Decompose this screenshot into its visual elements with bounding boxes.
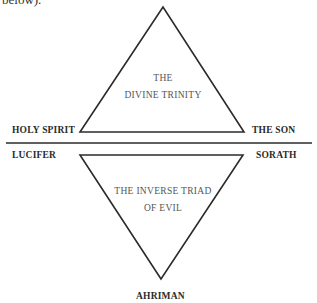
label-holy-spirit: HOLY SPIRIT	[12, 125, 75, 135]
label-ahriman: AHRIMAN	[136, 291, 185, 301]
inverse-triad-text: THE INVERSE TRIAD OF EVIL	[104, 183, 222, 217]
label-sorath: SORATH	[256, 150, 297, 160]
label-lucifer: LUCIFER	[12, 150, 56, 160]
label-the-son: THE SON	[252, 125, 295, 135]
divine-trinity-text: THE DIVINE TRINITY	[112, 70, 214, 104]
inverse-triad-triangle	[80, 155, 243, 279]
